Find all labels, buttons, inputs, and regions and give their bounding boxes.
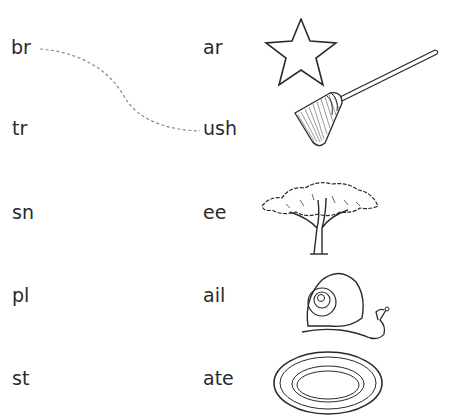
- plate-icon: [272, 350, 384, 416]
- tree-icon: [260, 178, 384, 260]
- brush-icon: [290, 45, 440, 155]
- snail-icon: [300, 268, 400, 348]
